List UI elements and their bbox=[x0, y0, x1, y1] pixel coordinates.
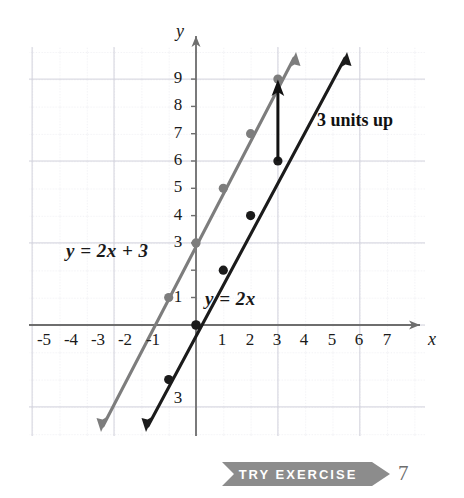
x-tick-label: 4 bbox=[293, 330, 315, 350]
x-tick-label: -4 bbox=[58, 330, 84, 350]
x-tick-label: 3 bbox=[266, 330, 288, 350]
banner-label: TRY EXERCISE bbox=[222, 462, 390, 486]
y-tick-label: 6 bbox=[168, 150, 188, 170]
label-three-units-up: 3 units up bbox=[317, 110, 393, 131]
banner-exercise-number: 7 bbox=[398, 461, 409, 486]
x-axis-name: x bbox=[428, 329, 436, 350]
y-tick-label: 9 bbox=[168, 68, 188, 88]
x-tick-label: 5 bbox=[321, 330, 343, 350]
x-tick-label: 6 bbox=[348, 330, 370, 350]
x-tick-label: 2 bbox=[239, 330, 261, 350]
y-tick-label: 8 bbox=[168, 95, 188, 115]
label-line-y-equals-2x-plus-3: y = 2x + 3 bbox=[66, 240, 149, 262]
graph-figure: y x -5 -4 -3 -2 -1 1 2 3 4 5 6 7 9 8 7 6… bbox=[0, 0, 464, 498]
y-tick-label: 3 bbox=[168, 388, 188, 408]
y-axis-name: y bbox=[176, 21, 184, 42]
x-tick-label: -2 bbox=[112, 330, 138, 350]
x-tick-label: 7 bbox=[376, 330, 398, 350]
x-tick-label: -3 bbox=[85, 330, 111, 350]
y-tick-label: 5 bbox=[168, 177, 188, 197]
y-tick-label: 1 bbox=[168, 287, 188, 307]
label-line-y-equals-2x: y = 2x bbox=[205, 288, 256, 310]
y-tick-label: 4 bbox=[168, 205, 188, 225]
y-tick-label: 3 bbox=[168, 232, 188, 252]
x-tick-label: -5 bbox=[31, 330, 57, 350]
try-exercise-banner[interactable]: TRY EXERCISE bbox=[222, 462, 390, 486]
x-tick-label: -1 bbox=[140, 330, 166, 350]
y-tick-label: 7 bbox=[168, 123, 188, 143]
x-tick-label: 1 bbox=[211, 330, 233, 350]
